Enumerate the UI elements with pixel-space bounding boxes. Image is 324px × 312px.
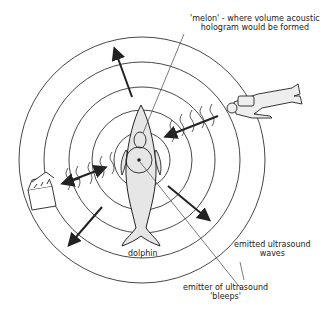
arrow-down-left-icon [70, 207, 102, 244]
emitter-label-line2: 'bleeps' [183, 292, 268, 301]
melon-label: 'melon' - where volume acoustic hologram… [190, 14, 320, 32]
dolphin-sonar-diagram [0, 0, 324, 312]
waves-label-line2: waves [234, 249, 311, 258]
arrow-up-icon [115, 50, 132, 97]
diagram-canvas: 'melon' - where volume acoustic hologram… [0, 0, 324, 312]
melon-label-line2: hologram would be formed [190, 23, 320, 32]
dolphin-icon [121, 105, 161, 246]
arrow-from-diver-icon [167, 116, 218, 136]
treasure-chest-icon [28, 172, 56, 210]
emitter-label-line1: emitter of ultrasound [183, 283, 268, 292]
emitter-label: emitter of ultrasound 'bleeps' [183, 283, 268, 301]
diver-icon [227, 84, 302, 118]
waves-label: emitted ultrasound waves [234, 240, 311, 258]
arrow-down-right-icon [168, 186, 208, 219]
melon-label-line1: 'melon' - where volume acoustic [190, 14, 320, 23]
dolphin-label: dolphin [128, 249, 158, 258]
arrow-to-chest-icon [64, 178, 80, 183]
waves-label-line1: emitted ultrasound [234, 240, 311, 249]
